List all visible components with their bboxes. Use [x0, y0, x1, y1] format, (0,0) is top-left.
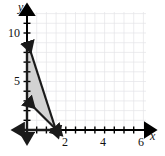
y-axis-label: y — [18, 1, 23, 13]
x-axis-label: x — [150, 130, 155, 142]
x-tick-label-4: 4 — [100, 136, 106, 148]
x-tick-label-6: 6 — [138, 136, 144, 148]
plot-canvas — [0, 0, 165, 156]
y-tick-label-5: 5 — [14, 75, 20, 87]
x-tick-label-2: 2 — [62, 136, 68, 148]
y-tick-label-10: 10 — [8, 27, 20, 39]
feasible-region-graph: 10 5 2 4 6 x y — [0, 0, 165, 156]
